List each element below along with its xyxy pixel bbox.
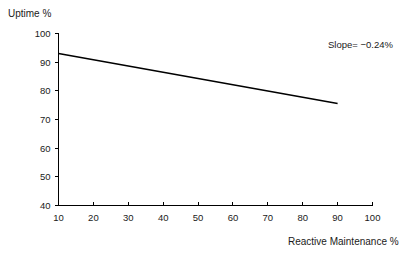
y-tick-label: 40 (40, 200, 51, 211)
x-axis-ticks: 102030405060708090100 (53, 202, 380, 223)
y-tick-label: 90 (40, 57, 51, 68)
x-tick-label: 50 (193, 212, 204, 223)
x-tick-label: 70 (263, 212, 274, 223)
x-axis-title: Reactive Maintenance % (288, 236, 399, 247)
x-tick-label: 100 (365, 212, 381, 223)
y-tick-label: 70 (40, 114, 51, 125)
y-tick-label: 80 (40, 85, 51, 96)
chart-container: Uptime % 405060708090100 102030405060708… (0, 0, 417, 260)
x-tick-label: 80 (297, 212, 308, 223)
x-tick-label: 20 (88, 212, 99, 223)
y-tick-label: 100 (35, 28, 51, 39)
y-axis-ticks: 405060708090100 (35, 28, 59, 211)
x-tick-label: 60 (228, 212, 239, 223)
y-tick-label: 60 (40, 143, 51, 154)
data-series-group (59, 54, 338, 104)
x-tick-label: 30 (123, 212, 134, 223)
x-tick-label: 40 (158, 212, 169, 223)
x-tick-label: 10 (53, 212, 64, 223)
x-tick-label: 90 (332, 212, 343, 223)
y-tick-label: 50 (40, 171, 51, 182)
slope-annotation: Slope= −0.24% (328, 39, 393, 50)
series-line (59, 54, 338, 104)
